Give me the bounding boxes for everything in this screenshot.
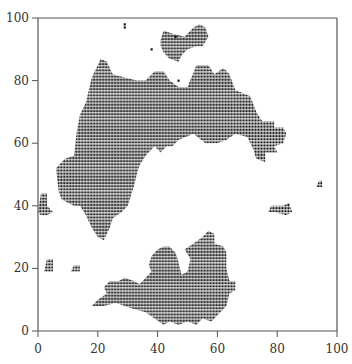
data-point (151, 48, 153, 50)
right-fragment (268, 203, 292, 216)
y-tick-label: 40 (14, 199, 29, 213)
data-point (178, 80, 180, 82)
x-tick-label: 100 (326, 342, 349, 356)
lattice-scatter-chart: 020406080100 020406080100 (0, 0, 352, 364)
y-tick-label: 80 (14, 74, 29, 88)
data-point (175, 36, 177, 38)
y-tick-label: 20 (14, 261, 29, 275)
y-axis-ticks: 020406080100 (6, 11, 38, 338)
y-tick-label: 100 (6, 11, 29, 25)
y-tick-label: 60 (14, 136, 29, 150)
upper-main-cluster (56, 59, 286, 241)
lower-left-fragment (44, 259, 53, 272)
small-fragment-1 (71, 265, 80, 271)
data-point (124, 26, 126, 28)
lower-cluster (92, 231, 236, 325)
far-right-fragment (316, 181, 322, 187)
data-point (124, 23, 126, 25)
data-regions (38, 24, 322, 324)
x-axis-ticks: 020406080100 (34, 331, 348, 356)
y-tick-label: 0 (21, 324, 29, 338)
x-tick-label: 60 (210, 342, 225, 356)
x-tick-label: 0 (34, 342, 42, 356)
left-fragment (38, 193, 53, 215)
x-tick-label: 80 (270, 342, 285, 356)
upper-island (161, 24, 209, 62)
x-tick-label: 20 (90, 342, 105, 356)
x-tick-label: 40 (150, 342, 165, 356)
